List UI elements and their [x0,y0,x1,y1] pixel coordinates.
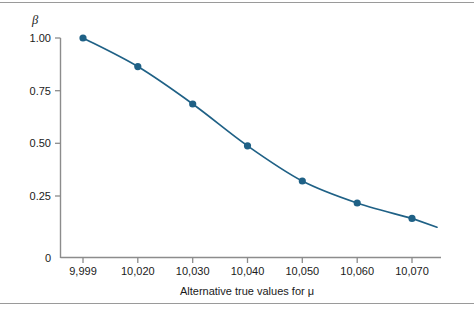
x-tick-label: 9,999 [69,265,97,277]
data-point [189,100,196,107]
x-tick-label: 10,030 [176,265,210,277]
y-tick-label: 0.25 [30,190,51,202]
data-point [408,215,415,222]
figure-container: β 1.00 0.75 0.50 0.25 0 9,999 10,020 10,… [0,0,474,321]
data-point [244,142,251,149]
line-chart: β 1.00 0.75 0.50 0.25 0 9,999 10,020 10,… [0,0,474,321]
y-tick-label: 0.75 [30,85,51,97]
y-axis-zero-label: 0 [45,252,51,264]
x-tick-label: 10,060 [340,265,374,277]
x-tick-label: 10,040 [231,265,265,277]
data-point [134,63,141,70]
x-tick-label: 10,020 [121,265,155,277]
x-tick-label: 10,050 [285,265,319,277]
data-point [299,177,306,184]
x-tick-label: 10,070 [395,265,429,277]
y-tick-label: 1.00 [30,32,51,44]
y-axis-title: β [31,13,39,27]
y-tick-label: 0.50 [30,137,51,149]
data-point [79,34,86,41]
x-axis-title: Alternative true values for μ [180,285,314,297]
data-point [354,199,361,206]
